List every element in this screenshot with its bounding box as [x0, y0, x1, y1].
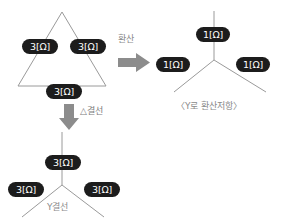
y-bottom-resistor-top: 3[Ω] [45, 155, 81, 170]
conversion-label: 환산 [118, 33, 134, 45]
delta-connection-label: △결선 [80, 105, 103, 117]
y-converted-resistor-top: 1[Ω] [196, 27, 230, 42]
y-converted-resistor-left: 1[Ω] [156, 57, 190, 72]
y-converted-resistor-right: 1[Ω] [236, 57, 270, 72]
y-connection-label: Y결선 [47, 201, 69, 213]
y-bottom-resistor-left: 3[Ω] [8, 182, 44, 197]
y-converted-shape [174, 11, 266, 92]
delta-resistor-bottom: 3[Ω] [46, 84, 82, 99]
arrow-right-icon [118, 53, 150, 72]
y-converted-caption: 〈Y로 환산저항〉 [176, 100, 242, 112]
arrow-down-icon [59, 104, 79, 130]
delta-resistor-left: 3[Ω] [22, 39, 58, 54]
y-bottom-resistor-right: 3[Ω] [84, 182, 120, 197]
diagram-canvas: 3[Ω] 3[Ω] 3[Ω] 환산 △결선 1[Ω] 1[Ω] 1[Ω] 〈Y로… [0, 0, 281, 221]
delta-resistor-right: 3[Ω] [70, 39, 106, 54]
